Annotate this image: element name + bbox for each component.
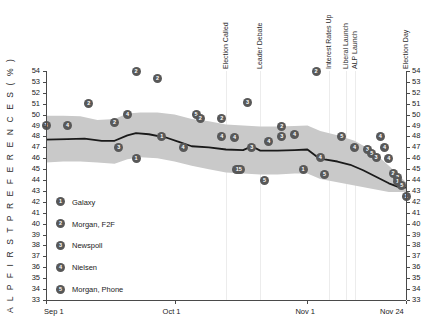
y-tick-label: 46 (412, 154, 420, 162)
y-tick (43, 147, 46, 148)
poll-marker: 1 (132, 154, 141, 163)
poll-marker: 4 (380, 143, 389, 152)
axis-spine (46, 71, 47, 300)
y-tick-label: 33 (24, 296, 40, 304)
y-tick (407, 93, 410, 94)
y-tick-label: 54 (412, 67, 420, 75)
y-tick (407, 267, 410, 268)
y-tick (407, 224, 410, 225)
poll-marker: 4 (230, 133, 239, 142)
y-tick-label: 48 (412, 132, 420, 140)
y-tick-label: 45 (412, 165, 420, 173)
y-tick (43, 169, 46, 170)
y-tick-label: 50 (24, 111, 40, 119)
y-tick-label: 52 (24, 89, 40, 97)
y-tick (43, 256, 46, 257)
y-tick (43, 289, 46, 290)
poll-marker: 4 (290, 130, 299, 139)
y-tick-label: 41 (24, 209, 40, 217)
legend-label-morgan-phone: Morgan, Phone (72, 285, 123, 294)
y-tick-label: 48 (24, 132, 40, 140)
y-tick-label: 51 (24, 100, 40, 108)
y-tick (407, 115, 410, 116)
y-tick-label: 39 (24, 231, 40, 239)
y-tick-label: 49 (412, 122, 420, 130)
poll-marker: 4 (123, 110, 132, 119)
y-tick (407, 289, 410, 290)
y-tick (43, 278, 46, 279)
legend-marker-nielsen: 4 (56, 263, 65, 272)
y-tick-label: 34 (412, 285, 420, 293)
y-tick (407, 213, 410, 214)
chart-root: A L P F I R S T P R E F E R E N C E S ( … (0, 0, 440, 329)
y-tick-label: 49 (24, 122, 40, 130)
y-tick-label: 41 (412, 209, 420, 217)
y-tick-label: 36 (412, 263, 420, 271)
y-tick (407, 126, 410, 127)
event-label: Election Called (222, 22, 229, 69)
y-tick-label: 42 (24, 198, 40, 206)
x-axis-spine (46, 300, 406, 301)
poll-marker: 2 (132, 67, 141, 76)
y-tick-label: 44 (24, 176, 40, 184)
y-tick-label: 47 (24, 143, 40, 151)
poll-marker: 15 (232, 165, 245, 174)
y-tick (407, 158, 410, 159)
poll-marker: 3 (247, 143, 256, 152)
poll-marker: 3 (372, 153, 381, 162)
legend-label-morgan-f2f: Morgan, F2F (72, 220, 115, 229)
y-tick (43, 202, 46, 203)
y-tick (407, 147, 410, 148)
y-tick (407, 180, 410, 181)
y-tick-label: 34 (24, 285, 40, 293)
y-tick-label: 46 (24, 154, 40, 162)
y-tick (407, 82, 410, 83)
y-tick-label: 51 (412, 100, 420, 108)
y-tick-label: 37 (412, 252, 420, 260)
y-tick (407, 104, 410, 105)
y-tick (43, 158, 46, 159)
y-tick-label: 44 (412, 176, 420, 184)
y-tick (407, 256, 410, 257)
event-label: Liberal Launch (342, 23, 349, 69)
x-tick (307, 301, 308, 304)
poll-marker: 4 (63, 121, 72, 130)
y-axis-label: A L P F I R S T P R E F E R E N C E S ( … (0, 60, 20, 310)
y-tick (407, 169, 410, 170)
y-tick (407, 136, 410, 137)
y-tick-label: 38 (412, 241, 420, 249)
y-tick-label: 38 (24, 241, 40, 249)
y-tick-label: 54 (24, 67, 40, 75)
y-tick (43, 180, 46, 181)
y-tick (43, 224, 46, 225)
legend-label-galaxy: Galaxy (72, 198, 95, 207)
y-tick (43, 213, 46, 214)
x-tick-label: Sep 1 (44, 307, 64, 316)
event-label: Election Day (402, 30, 409, 69)
poll-marker: 4 (179, 143, 188, 152)
y-tick (43, 235, 46, 236)
poll-marker: 4 (350, 143, 359, 152)
poll-marker: 4 (316, 153, 325, 162)
y-tick-label: 40 (24, 220, 40, 228)
y-tick (43, 245, 46, 246)
y-tick (43, 71, 46, 72)
y-tick (43, 126, 46, 127)
y-tick (407, 202, 410, 203)
y-tick (407, 71, 410, 72)
y-tick-label: 43 (412, 187, 420, 195)
poll-marker: 3 (243, 98, 252, 107)
plot-svg (46, 71, 406, 300)
y-tick (407, 300, 410, 301)
y-tick-label: 45 (24, 165, 40, 173)
y-tick (407, 191, 410, 192)
y-tick-label: 42 (412, 198, 420, 206)
y-tick (43, 267, 46, 268)
event-label: Leader Debate (256, 23, 263, 69)
x-tick-label: Nov 1 (295, 307, 315, 316)
y-tick (43, 82, 46, 83)
y-tick (407, 235, 410, 236)
y-tick-label: 37 (24, 252, 40, 260)
legend-label-nielsen: Nielsen (72, 263, 97, 272)
legend-marker-morgan-phone: 5 (56, 285, 65, 294)
